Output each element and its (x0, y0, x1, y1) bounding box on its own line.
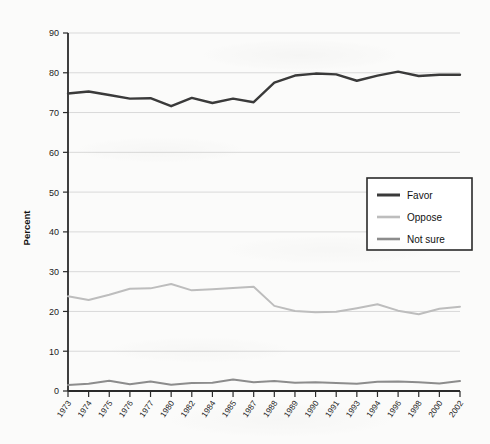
y-tick-label-0: 0 (54, 386, 59, 396)
x-tick-label-1974: 1974 (76, 399, 94, 419)
x-tick-label-1993: 1993 (344, 399, 362, 419)
y-tick-label-40: 40 (49, 227, 59, 237)
y-tick-label-20: 20 (49, 307, 59, 317)
y-tick-label-80: 80 (49, 68, 59, 78)
x-tick-label-1990: 1990 (303, 399, 321, 419)
legend-label-oppose: Oppose (407, 212, 442, 223)
x-axis-ticks: 1973197419751976197719801982198419851987… (55, 391, 465, 419)
series-line-favor (68, 72, 460, 107)
y-tick-label-50: 50 (49, 188, 59, 198)
legend-label-favor: Favor (407, 190, 433, 201)
chart-canvas: 0102030405060708090Percent19731974197519… (0, 0, 490, 444)
x-tick-label-1998: 1998 (406, 399, 424, 419)
series-line-not-sure (68, 379, 460, 385)
y-tick-label-90: 90 (49, 28, 59, 38)
x-tick-label-1987: 1987 (241, 399, 259, 419)
x-tick-label-2000: 2000 (427, 399, 445, 419)
x-tick-label-1985: 1985 (220, 399, 238, 419)
y-tick-label-60: 60 (49, 148, 59, 158)
x-tick-label-1973: 1973 (55, 399, 73, 419)
x-tick-label-1976: 1976 (117, 399, 135, 419)
legend-label-not-sure: Not sure (407, 234, 445, 245)
y-tick-label-30: 30 (49, 267, 59, 277)
x-tick-label-1991: 1991 (324, 399, 342, 419)
x-tick-label-1977: 1977 (138, 399, 156, 419)
legend: FavorOpposeNot sure (367, 178, 472, 250)
x-tick-label-1982: 1982 (179, 399, 197, 419)
x-tick-label-1989: 1989 (282, 399, 300, 419)
x-tick-label-1996: 1996 (385, 399, 403, 419)
y-tick-label-70: 70 (49, 108, 59, 118)
x-tick-label-1988: 1988 (262, 399, 280, 419)
x-tick-label-1980: 1980 (158, 399, 176, 419)
x-tick-label-1994: 1994 (365, 399, 383, 419)
y-axis-title: Percent (21, 210, 32, 246)
series-line-oppose (68, 284, 460, 314)
x-tick-label-1975: 1975 (97, 399, 115, 419)
y-tick-label-10: 10 (49, 347, 59, 357)
x-tick-label-1984: 1984 (200, 399, 218, 419)
x-tick-label-2002: 2002 (447, 399, 465, 419)
line-chart: 0102030405060708090Percent19731974197519… (0, 0, 490, 444)
